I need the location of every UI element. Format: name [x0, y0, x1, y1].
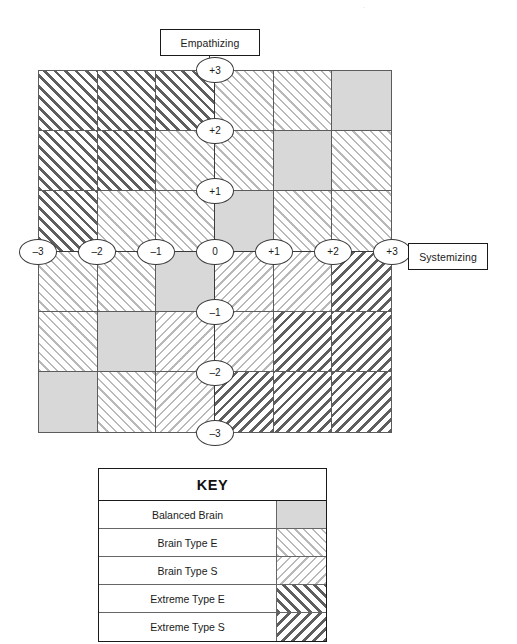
y-axis-tick: –3 — [196, 420, 234, 446]
key-row: Brain Type E — [99, 529, 326, 557]
key-row-swatch — [276, 557, 326, 584]
grid-cell-extreme-type-s — [332, 372, 391, 432]
key-row-swatch — [276, 501, 326, 528]
grid-cell-balanced-brain — [39, 372, 98, 432]
key-row-label: Extreme Type S — [99, 613, 276, 641]
key-row-label: Brain Type E — [99, 529, 276, 556]
key-row-swatch — [276, 529, 326, 556]
grid-cell-extreme-type-s — [274, 312, 333, 372]
x-axis-tick: +3 — [373, 239, 411, 265]
key-row: Balanced Brain — [99, 501, 326, 529]
x-axis-tick: +2 — [314, 239, 352, 265]
grid-cell-extreme-type-e — [98, 71, 157, 131]
grid-cell-extreme-type-e — [39, 131, 98, 191]
grid-cell-balanced-brain — [332, 71, 391, 131]
key-row: Extreme Type E — [99, 585, 326, 613]
y-axis-tick: +1 — [196, 178, 234, 204]
x-axis-tick: +1 — [255, 239, 293, 265]
key-legend: KEY Balanced BrainBrain Type EBrain Type… — [98, 468, 327, 642]
page-artifact: . — [363, 1, 365, 10]
grid-cell-extreme-type-s — [274, 372, 333, 432]
grid-cell-brain-type-e — [274, 71, 333, 131]
grid-cell-balanced-brain — [98, 312, 157, 372]
grid-cell-extreme-type-e — [98, 131, 157, 191]
y-axis-tick: +3 — [196, 57, 234, 83]
key-rows: Balanced BrainBrain Type EBrain Type SEx… — [99, 501, 326, 641]
x-axis-tick: –3 — [19, 239, 57, 265]
y-axis-tick: –2 — [196, 360, 234, 386]
x-axis-tick: –2 — [78, 239, 116, 265]
key-title: KEY — [99, 469, 326, 501]
key-row-label: Balanced Brain — [99, 501, 276, 528]
key-row: Extreme Type S — [99, 613, 326, 641]
empathizing-systemizing-diagram: . Empathizing Systemizing +3+2+10–1–2–3–… — [0, 0, 517, 450]
key-row-swatch — [276, 585, 326, 612]
x-axis-tick: –1 — [137, 239, 175, 265]
grid-cell-balanced-brain — [274, 131, 333, 191]
grid-cell-brain-type-e — [332, 131, 391, 191]
brain-type-grid: +3+2+10–1–2–3–3–2–10+1+2+3 — [38, 70, 392, 433]
empathizing-axis-label: Empathizing — [160, 29, 260, 56]
key-row-label: Brain Type S — [99, 557, 276, 584]
grid-cell-extreme-type-e — [39, 71, 98, 131]
key-row: Brain Type S — [99, 557, 326, 585]
y-axis-tick: –1 — [196, 299, 234, 325]
grid-cell-brain-type-e — [98, 372, 157, 432]
key-row-label: Extreme Type E — [99, 585, 276, 612]
systemizing-axis-label: Systemizing — [408, 243, 488, 270]
key-row-swatch — [276, 613, 326, 641]
y-axis-tick: +2 — [196, 118, 234, 144]
x-axis-tick: 0 — [196, 239, 234, 265]
grid-cell-extreme-type-s — [332, 312, 391, 372]
grid-cell-brain-type-e — [39, 312, 98, 372]
